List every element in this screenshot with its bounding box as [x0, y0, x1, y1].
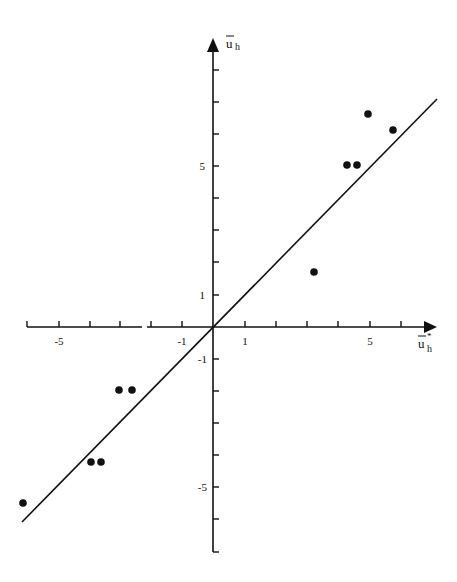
x-tick-label-pos5: 5: [367, 335, 373, 347]
scatter-chart: -5 -1 1 5 u * h: [0, 0, 457, 582]
y-tick-label-neg1: -1: [198, 353, 207, 365]
x-tick-label-neg5: -5: [54, 335, 64, 347]
svg-text:u: u: [418, 336, 425, 351]
x-tick-label-pos1: 1: [242, 335, 248, 347]
data-point: [128, 386, 136, 394]
y-tick-label-pos5: 5: [200, 160, 206, 172]
x-axis: -5 -1 1 5 u * h: [27, 321, 437, 354]
y-axis-arrow-icon: [207, 38, 219, 52]
data-point: [389, 126, 397, 134]
svg-text:h: h: [427, 343, 432, 354]
data-point: [87, 458, 95, 466]
data-points: [19, 110, 397, 507]
data-point: [310, 268, 318, 276]
data-point: [343, 161, 351, 169]
x-tick-label-neg1: -1: [177, 335, 186, 347]
y-axis: 5 1 -1 -5 u h: [198, 36, 240, 552]
svg-text:*: *: [427, 331, 432, 341]
x-axis-label: u * h: [418, 331, 432, 354]
svg-text:u: u: [226, 36, 233, 51]
y-axis-ticks: [213, 70, 219, 552]
data-point: [115, 386, 123, 394]
y-tick-label-neg5: -5: [198, 481, 208, 493]
data-point: [19, 499, 27, 507]
data-point: [364, 110, 372, 118]
data-point: [353, 161, 361, 169]
reference-line: [22, 99, 437, 522]
y-axis-label: u h: [226, 36, 240, 52]
y-tick-label-pos1: 1: [200, 289, 206, 301]
svg-text:h: h: [235, 41, 240, 52]
data-point: [97, 458, 105, 466]
